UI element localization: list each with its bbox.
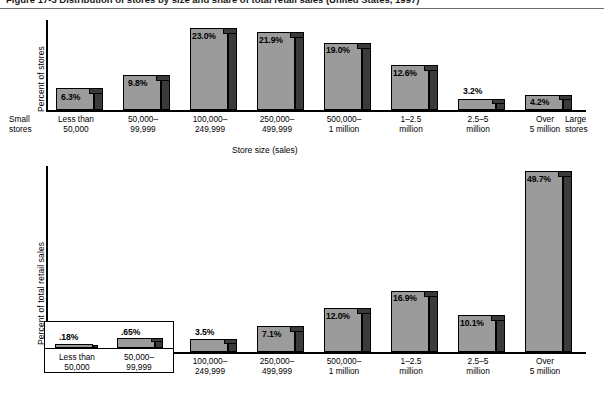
bar-top-face [558,171,572,177]
small-stores-note-line2: stores [9,124,32,134]
bar-value-label: 3.5% [195,327,214,337]
cat-label: 499,999 [246,366,308,376]
cat-label: Less than [48,352,106,362]
bar-value-label: 9.8% [128,78,147,88]
bar-top-face [156,75,170,81]
large-stores-note-line2: stores [565,124,588,134]
bar-value-label: 16.9% [393,293,417,303]
bar-side [228,343,237,352]
bar-top-face [424,65,438,71]
cat-label: 2.5–5 [447,114,509,124]
bar-side [295,331,304,352]
cat-label: 1 million [313,366,375,376]
bar-side [228,33,237,110]
bar-top-face [357,308,371,314]
inset-bar-50000-99999 [117,338,155,348]
bar-value-label: 10.1% [460,318,484,328]
bar-value-label: 12.6% [393,68,417,78]
cat-label: 2.5–5 [447,356,509,366]
bar-value-label: 7.1% [262,329,281,339]
bar-top-face [89,88,103,94]
bar-side [362,313,371,352]
bar-top-face [290,32,304,38]
bar-value-label: 21.9% [259,35,283,45]
bar-top-face [491,315,505,321]
bar-side [155,341,163,348]
bar-side [295,37,304,110]
figure-top-rule [0,8,604,9]
inset-bar-value-label: .65% [121,327,140,337]
cat-label: 100,000– [179,114,241,124]
cat-label: million [380,366,442,376]
inset-bar-value-label: .18% [59,332,78,342]
bar-top-2_5-5million [458,99,496,110]
cat-label: 50,000 [45,124,107,134]
bar-top-face [151,338,163,342]
cat-label: 1–2.5 [380,356,442,366]
figure-title-strip: Figure 17-3 Distribution of stores by si… [0,0,604,7]
bar-side [161,80,170,110]
cat-label: million [447,124,509,134]
top-chart-y-axis-line [46,20,48,112]
bar-front [458,99,496,110]
bar-side [429,70,438,110]
bar-top-face [424,291,438,297]
cat-label: 250,000– [246,114,308,124]
bar-bottom-over-5million [525,171,563,352]
cat-label: 50,000– [110,352,168,362]
cat-label: 5 million [514,366,576,376]
bar-value-label: 23.0% [192,31,216,41]
figure-title: Figure 17-3 Distribution of stores by si… [6,0,419,5]
bar-top-face [290,326,304,332]
bar-value-label: 12.0% [326,311,350,321]
cat-label: Less than [45,114,107,124]
bar-bottom-100000-249999 [190,339,228,352]
cat-label: 1–2.5 [380,114,442,124]
top-chart-x-axis-line [46,110,586,112]
bar-top-face [492,99,505,104]
cat-label: 1 million [313,124,375,134]
small-stores-note-line1: Small [9,114,30,124]
bar-front [117,338,155,348]
cat-label: 249,999 [179,124,241,134]
cat-label: 500,000– [313,356,375,366]
top-chart-x-axis-title: Store size (sales) [232,145,298,155]
figure-canvas: Figure 17-3 Distribution of stores by si… [0,0,604,415]
cat-label: 500,000– [313,114,375,124]
cat-label: 50,000– [112,114,174,124]
cat-label: 99,999 [112,124,174,134]
bar-side [563,99,572,110]
bar-side [429,296,438,353]
cat-label: 100,000– [179,356,241,366]
bar-value-label: 49.7% [527,174,551,184]
cat-label: 250,000– [246,356,308,366]
bar-front [525,171,563,352]
bar-side [563,176,572,352]
bar-side [496,320,505,352]
bar-side [496,103,505,110]
bar-top-face [224,339,237,344]
bar-value-label: 4.2% [530,97,549,107]
bar-value-label: 3.2% [463,86,482,96]
bar-side [362,48,371,110]
cat-label: Over [514,356,576,366]
cat-label: 499,999 [246,124,308,134]
bar-top-face [357,43,371,49]
bar-front [190,339,228,352]
cat-label: million [447,366,509,376]
cat-label: 249,999 [179,366,241,376]
cat-label: 50,000 [48,362,106,372]
bar-top-face [223,28,237,34]
bar-side [94,93,103,110]
bar-top-face [559,95,572,100]
top-chart-y-axis-label: Percent of stores [36,46,46,112]
bar-value-label: 6.3% [61,92,80,102]
large-stores-note-line1: Large [565,114,586,124]
bar-value-label: 19.0% [326,45,350,55]
inset-baseline [44,348,174,349]
cat-label: 99,999 [110,362,168,372]
cat-label: million [380,124,442,134]
